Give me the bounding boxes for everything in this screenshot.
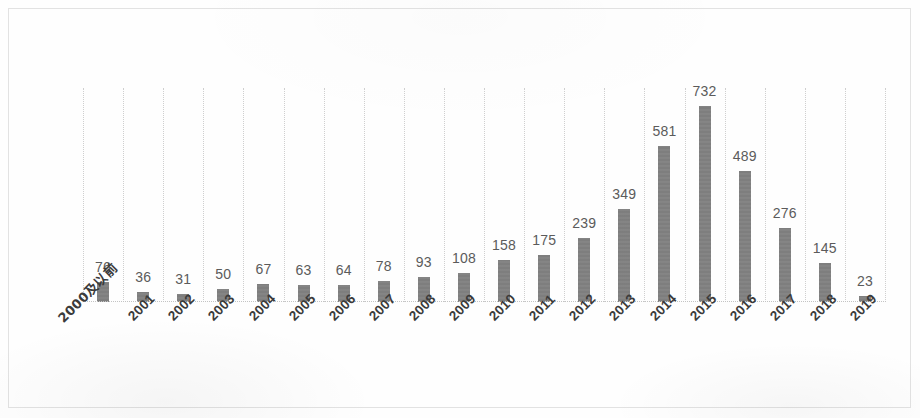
bar-value-label: 93 [401, 254, 447, 270]
gridline [484, 88, 485, 302]
bar [618, 209, 630, 302]
bar-value-label: 732 [682, 83, 728, 99]
bar-value-label: 489 [722, 148, 768, 164]
gridline [885, 88, 886, 302]
gridline [725, 88, 726, 302]
bar-value-label: 23 [842, 273, 888, 289]
bar-value-label: 581 [641, 123, 687, 139]
bar-value-label: 276 [762, 205, 808, 221]
gridline [685, 88, 686, 302]
bar-chart-figure: 762000及以前3620013120025020036720046320056… [0, 0, 920, 418]
bar-value-label: 64 [321, 262, 367, 278]
gridline [805, 88, 806, 302]
bar-value-label: 239 [561, 215, 607, 231]
gridline [524, 88, 525, 302]
bar-value-label: 36 [120, 269, 166, 285]
gridline [765, 88, 766, 302]
gridline [564, 88, 565, 302]
bar-value-label: 145 [802, 240, 848, 256]
bar [739, 171, 751, 302]
bar-value-label: 349 [601, 186, 647, 202]
bar-value-label: 108 [441, 250, 487, 266]
bar-value-label: 63 [281, 262, 327, 278]
bar-value-label: 67 [240, 261, 286, 277]
bar-value-label: 175 [521, 232, 567, 248]
bar-value-label: 31 [160, 271, 206, 287]
bar-value-label: 50 [200, 266, 246, 282]
gridline [845, 88, 846, 302]
bar [699, 106, 711, 302]
x-axis-baseline [83, 301, 886, 302]
bar-value-label: 158 [481, 237, 527, 253]
bar-value-label: 78 [361, 258, 407, 274]
bar [658, 146, 670, 302]
